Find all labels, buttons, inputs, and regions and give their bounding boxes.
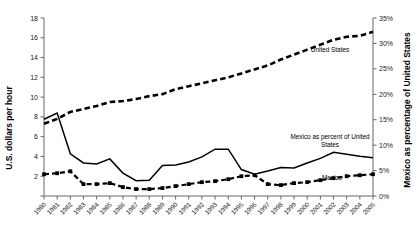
right-axis-title: Mexico as percentage of United States <box>402 32 412 188</box>
series-marker-mexico <box>68 169 72 173</box>
right-tick-label: 15% <box>379 116 393 123</box>
series-marker-mexico <box>371 172 375 176</box>
right-tick-label: 5% <box>379 167 389 174</box>
left-tick-label: 12 <box>30 74 38 81</box>
series-marker-mexico <box>226 177 230 181</box>
series-marker-mexico <box>174 184 178 188</box>
series-marker-mexico <box>121 185 125 189</box>
series-marker-mexico <box>240 174 244 178</box>
series-marker-mexico <box>95 182 99 186</box>
left-tick-label: 14 <box>30 54 38 61</box>
series-marker-mexico <box>279 183 283 187</box>
dual-axis-line-chart: 24681012141618 0%5%10%15%20%25%30%35% 19… <box>0 0 417 236</box>
mexico-percent-series-label-line2: States <box>321 141 339 148</box>
right-tick-label: 10% <box>379 142 393 149</box>
series-marker-mexico <box>200 180 204 184</box>
mexico-series-label: Mexico <box>322 174 343 181</box>
series-marker-mexico <box>55 171 59 175</box>
right-tick-label: 35% <box>379 15 393 22</box>
left-tick-label: 8 <box>34 113 38 120</box>
chart-container: 24681012141618 0%5%10%15%20%25%30%35% 19… <box>0 0 417 236</box>
series-marker-mexico <box>345 174 349 178</box>
left-tick-label: 10 <box>30 94 38 101</box>
left-tick-label: 16 <box>30 34 38 41</box>
left-tick-label: 4 <box>34 153 38 160</box>
left-tick-label: 2 <box>34 173 38 180</box>
right-tick-label: 25% <box>379 65 393 72</box>
left-axis-title: U.S. dollars per hour <box>4 86 14 170</box>
series-marker-mexico <box>147 187 151 191</box>
series-marker-mexico <box>292 181 296 185</box>
series-marker-mexico <box>161 186 165 190</box>
series-marker-mexico <box>108 181 112 185</box>
series-marker-mexico <box>82 182 86 186</box>
left-tick-label: 6 <box>34 133 38 140</box>
series-marker-mexico <box>358 173 362 177</box>
right-tick-label: 0% <box>379 193 389 200</box>
series-marker-mexico <box>42 172 46 176</box>
series-marker-mexico <box>187 182 191 186</box>
right-tick-label: 30% <box>379 40 393 47</box>
left-tick-label: 18 <box>30 15 38 22</box>
series-marker-mexico <box>266 182 270 186</box>
right-tick-label: 20% <box>379 91 393 98</box>
series-marker-mexico <box>134 187 138 191</box>
united-states-series-label: United States <box>311 46 349 53</box>
series-marker-mexico <box>305 180 309 184</box>
mexico-percent-series-label: Mexico as percent of United <box>290 133 370 141</box>
series-marker-mexico <box>213 179 217 183</box>
